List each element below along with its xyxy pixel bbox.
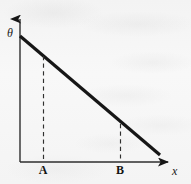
x-axis-label: x <box>172 165 177 177</box>
figure-container: θ x A B <box>0 0 191 184</box>
x-tick-label-b: B <box>112 164 128 176</box>
plot-canvas <box>0 0 191 184</box>
y-axis-label: θ <box>7 27 13 39</box>
data-line-theta-vs-x <box>20 36 160 155</box>
x-tick-label-a: A <box>35 164 51 176</box>
